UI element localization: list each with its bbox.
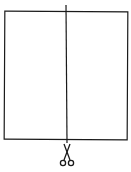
cut-line [66,5,67,143]
cut-paper-diagram [0,0,131,172]
scissors-icon [60,144,73,166]
